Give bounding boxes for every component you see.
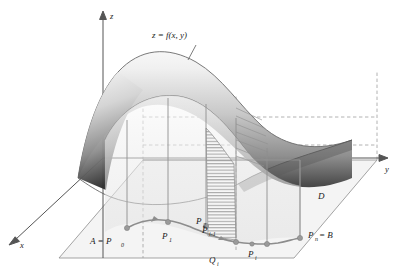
z-axis-label: z	[109, 11, 114, 21]
dot-Pn	[297, 235, 302, 240]
dot-Qi	[250, 242, 254, 246]
label-P1-subscript: 1	[169, 237, 172, 243]
label-Pi-minus-1-main: P	[201, 225, 208, 235]
label-Pn-equals-B-suffix: = B	[319, 230, 333, 240]
label-Qi-main: Q	[209, 255, 216, 265]
y-axis-arrowhead	[379, 155, 388, 162]
label-Pn-subscript: n	[315, 236, 318, 242]
label-A-P0-subscript: 0	[121, 242, 124, 248]
label-Qi-subscript: i	[217, 261, 219, 267]
region-D-label: D	[317, 191, 325, 201]
dot-Pi-1	[233, 239, 238, 244]
label-Pi-main: P	[247, 249, 254, 259]
x-axis-arrowhead	[9, 237, 20, 245]
label-Pn-equals-B: P n = B	[307, 230, 333, 242]
x-axis-label: x	[19, 240, 24, 250]
y-axis-label: y	[384, 164, 389, 174]
label-Pn-main: P	[307, 230, 314, 240]
surface-label-leader-line	[188, 45, 196, 60]
figure-canvas: z = f(x, y) z y x D A = P 0 P 1 P 2 P i-…	[0, 0, 409, 269]
z-axis-arrowhead	[100, 11, 107, 20]
label-P1-main: P	[161, 231, 168, 241]
dot-Pi	[264, 241, 269, 246]
label-A-P0-main: A = P	[89, 236, 112, 246]
label-Pi-minus-1-subscript: i-1	[209, 231, 216, 237]
line-integral-figure: z = f(x, y) z y x D A = P 0 P 1 P 2 P i-…	[0, 0, 409, 269]
label-P2-main: P	[195, 216, 202, 226]
dot-P1	[165, 219, 170, 224]
surface-equation-label: z = f(x, y)	[151, 30, 187, 40]
dot-P0	[124, 225, 129, 230]
